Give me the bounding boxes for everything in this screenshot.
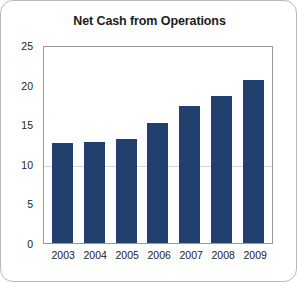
y-axis: 0510152025 bbox=[1, 46, 39, 244]
y-axis-tick-label: 20 bbox=[21, 80, 33, 92]
bar bbox=[116, 139, 137, 243]
chart-card: Net Cash from Operations 0510152025 2003… bbox=[0, 0, 297, 282]
x-axis-tick-label: 2003 bbox=[52, 249, 73, 267]
y-axis-tick-label: 25 bbox=[21, 40, 33, 52]
bar bbox=[84, 142, 105, 243]
bar bbox=[147, 123, 168, 243]
y-axis-tick-label: 15 bbox=[21, 119, 33, 131]
x-axis-tick-label: 2004 bbox=[84, 249, 105, 267]
bar bbox=[179, 106, 200, 243]
x-axis-tick-label: 2009 bbox=[244, 249, 265, 267]
bar bbox=[52, 143, 73, 243]
x-axis: 2003200420052006200720082009 bbox=[43, 249, 273, 267]
x-axis-tick-label: 2006 bbox=[148, 249, 169, 267]
x-axis-tick-label: 2008 bbox=[212, 249, 233, 267]
bar bbox=[211, 96, 232, 243]
x-axis-tick-label: 2005 bbox=[116, 249, 137, 267]
y-axis-tick-label: 5 bbox=[27, 198, 33, 210]
y-axis-tick-label: 10 bbox=[21, 159, 33, 171]
bar bbox=[243, 80, 264, 243]
x-axis-tick-label: 2007 bbox=[180, 249, 201, 267]
bar-series bbox=[44, 47, 272, 243]
chart-title: Net Cash from Operations bbox=[1, 14, 297, 28]
plot-area bbox=[43, 46, 273, 244]
y-axis-tick-label: 0 bbox=[27, 238, 33, 250]
